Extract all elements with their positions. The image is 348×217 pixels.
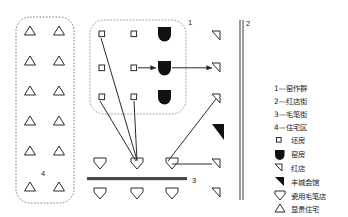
legend-item-noble-residence: 显贵住宅	[291, 205, 319, 214]
filled-shield-icon	[275, 150, 285, 160]
zone-label-4: 4	[41, 169, 45, 178]
filled-shield-icon	[158, 27, 171, 42]
brush-street-bar	[87, 177, 187, 180]
legend-item-4: 4—住宅区	[274, 123, 308, 132]
zone-label-2: 2	[246, 19, 250, 28]
legend-item-3: 3—毛笔街	[274, 110, 308, 119]
legend-item-red-shop: 红店	[291, 164, 305, 173]
zone-label-3: 3	[192, 176, 196, 185]
legend-item-brush-shop: 瓷用毛笔店	[291, 192, 326, 201]
legend-item-guild-hall: 丰城会馆	[291, 178, 319, 187]
legend-item-blank-house: 坯房	[291, 136, 305, 145]
filled-shield-icon	[158, 61, 171, 76]
filled-shield-icon	[158, 90, 171, 105]
legend-item-kiln-house: 窑房	[291, 150, 305, 159]
diagram-canvas: 4 1 2	[0, 0, 348, 217]
zone-label-1: 1	[188, 18, 192, 27]
legend-item-1: 1—窑作群	[274, 84, 308, 93]
legend-item-2: 2—红店街	[274, 97, 308, 106]
